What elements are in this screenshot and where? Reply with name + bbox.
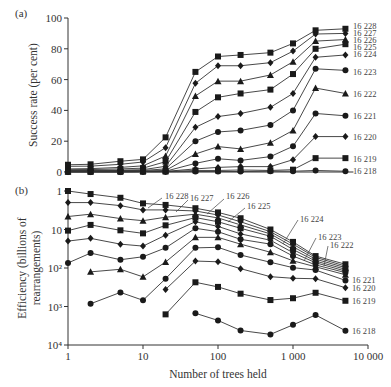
panel-b-y-tick-label: 1 <box>57 185 63 197</box>
circle-marker <box>117 169 123 175</box>
panel-b-series <box>65 188 349 337</box>
series-line <box>68 88 345 171</box>
diamond-marker <box>215 258 221 265</box>
square-marker <box>342 155 348 161</box>
circle-marker <box>163 245 169 251</box>
series-line <box>166 282 346 314</box>
circle-marker <box>313 312 319 318</box>
diamond-marker <box>238 62 244 69</box>
diamond-marker <box>163 232 169 239</box>
square-marker <box>342 298 348 304</box>
circle-marker <box>140 169 146 175</box>
series-16226 <box>65 36 349 172</box>
square-marker <box>267 87 273 93</box>
diamond-marker <box>342 51 348 58</box>
series-16223 <box>65 66 348 174</box>
panel-a-y-tick-label: 60 <box>51 74 63 86</box>
circle-marker <box>65 169 71 175</box>
leader-line <box>148 198 162 208</box>
x-tick-label: 10 000 <box>353 350 384 362</box>
square-marker <box>238 90 244 96</box>
series-label: 16 222 <box>353 89 376 99</box>
x-tick-label: 100 <box>210 350 227 362</box>
triangle-marker <box>267 71 274 78</box>
panel-a-y-tick-label: 0 <box>57 166 63 178</box>
x-axis-label: Number of trees held <box>169 368 267 380</box>
square-marker <box>65 228 71 234</box>
series-label: 16 225 <box>247 201 270 211</box>
circle-marker <box>215 229 221 235</box>
circle-marker <box>342 113 348 119</box>
square-marker <box>290 295 296 301</box>
square-marker <box>290 71 296 77</box>
circle-marker <box>313 110 319 116</box>
circle-marker <box>163 276 169 282</box>
panel-b-y-tick-label: 10² <box>48 262 63 274</box>
diamond-marker <box>65 199 71 206</box>
circle-marker <box>192 245 198 251</box>
circle-marker <box>238 169 244 175</box>
square-marker <box>267 297 273 303</box>
diamond-marker <box>313 275 319 282</box>
diamond-marker <box>238 110 244 117</box>
panel-b-y-axis-label-line2: rearrangements) <box>30 230 43 305</box>
series-16227 <box>65 199 348 269</box>
diamond-marker <box>313 54 319 61</box>
panel-a-y-tick-label: 80 <box>51 43 63 55</box>
series-line <box>68 33 345 166</box>
diamond-marker <box>342 284 348 291</box>
series-label: 16 221 <box>353 111 376 121</box>
square-marker <box>117 227 123 233</box>
square-marker <box>215 284 221 290</box>
x-tick-label: 10 <box>138 350 150 362</box>
square-marker <box>163 311 169 317</box>
circle-marker <box>192 225 198 231</box>
circle-marker <box>313 267 319 273</box>
circle-marker <box>267 259 273 265</box>
diamond-marker <box>140 206 146 213</box>
diamond-marker <box>290 90 296 97</box>
circle-marker <box>267 241 273 247</box>
series-label: 16 223 <box>353 67 376 77</box>
panel-a-label: (a) <box>15 7 28 20</box>
triangle-marker <box>237 241 244 248</box>
triangle-marker <box>192 150 199 157</box>
series-line <box>68 55 345 171</box>
circle-marker <box>140 254 146 260</box>
circle-marker <box>342 67 348 73</box>
square-marker <box>342 41 348 47</box>
triangle-marker <box>192 92 199 99</box>
series-16227 <box>65 30 348 170</box>
series-16224 <box>65 218 348 274</box>
triangle-marker <box>215 143 222 150</box>
circle-marker <box>163 169 169 175</box>
series-16219 <box>163 279 349 317</box>
square-marker <box>313 46 319 52</box>
diamond-marker <box>342 133 348 140</box>
circle-marker <box>342 277 348 283</box>
circle-marker <box>117 289 123 295</box>
diamond-marker <box>267 273 273 280</box>
circle-marker <box>342 328 348 334</box>
circle-marker <box>88 250 94 256</box>
panel-b-y-tick-label: 10 <box>51 224 63 236</box>
diamond-marker <box>290 275 296 282</box>
diamond-marker <box>88 235 94 242</box>
circle-marker <box>65 260 71 266</box>
circle-marker <box>267 122 273 128</box>
diamond-marker <box>267 59 273 66</box>
diamond-marker <box>215 62 221 69</box>
series-label: 16 222 <box>330 240 353 250</box>
series-line <box>68 44 345 170</box>
series-label: 16 224 <box>300 214 324 224</box>
panel-a-series <box>65 26 349 175</box>
square-marker <box>313 290 319 296</box>
diamond-marker <box>163 144 169 151</box>
series-label: 16 228 <box>165 191 188 201</box>
diamond-marker <box>267 104 273 111</box>
circle-marker <box>238 327 244 333</box>
series-label: 16 227 <box>190 193 213 203</box>
circle-marker <box>88 301 94 307</box>
circle-marker <box>215 317 221 323</box>
square-marker <box>267 50 273 56</box>
